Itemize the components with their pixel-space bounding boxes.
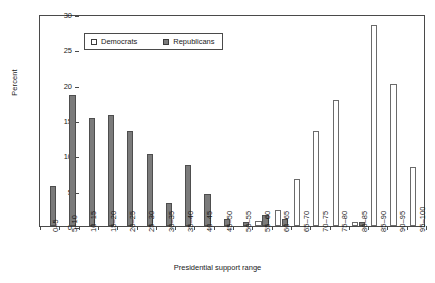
x-tick-label: 30–35 [168,211,176,232]
bar-democrats-90-95 [390,84,396,226]
x-tick-mark [98,226,99,230]
x-tick-label: 45–50 [226,211,234,232]
y-tick-label: 20 [64,82,72,91]
chart-figure: Percent 051015202530 Democrats Republica… [0,0,435,283]
x-tick-label: 65–70 [303,211,311,232]
bar-republicans-5-10 [69,95,75,226]
x-tick-label: 15–20 [110,211,118,232]
y-tick-mark [75,157,79,158]
bar-republicans-15-20 [108,115,114,226]
x-tick-label: 25–30 [148,211,156,232]
x-tick-mark [40,226,41,230]
x-tick-mark [291,226,292,230]
plot-area: 051015202530 Democrats Republicans [39,15,425,227]
chart-legend: Democrats Republicans [84,33,223,50]
bar-democrats-80-85 [352,222,358,226]
legend-swatch-democrats [91,39,97,45]
x-tick-label: 85–90 [380,211,388,232]
legend-item-democrats: Democrats [91,37,137,46]
x-tick-label: 0–5 [52,219,60,232]
x-tick-label: 35–40 [187,211,195,232]
y-tick-label: 30 [64,11,72,20]
x-tick-label: 80–85 [361,211,369,232]
x-tick-label: 90–95 [399,211,407,232]
x-tick-label: 40–45 [206,211,214,232]
x-tick-label: 75–80 [341,211,349,232]
y-tick-mark [75,16,79,17]
y-tick-mark [75,193,79,194]
x-tick-label: 70–75 [322,211,330,232]
x-tick-label: 55–60 [264,211,272,232]
x-tick-label: 60–65 [283,211,291,232]
bar-democrats-95-100 [410,167,416,226]
bar-democrats-60-65 [275,210,281,226]
x-axis-title: Presidential support range [0,263,435,272]
y-tick-label: 25 [64,46,72,55]
bar-democrats-70-75 [313,131,319,226]
x-tick-label: 5–10 [71,215,79,232]
bar-democrats-55-60 [255,221,261,226]
legend-item-republicans: Republicans [163,37,214,46]
bar-democrats-65-70 [294,179,300,226]
x-tick-label: 10–15 [90,211,98,232]
bar-democrats-85-90 [371,25,377,226]
legend-swatch-republicans [163,39,169,45]
x-tick-label: 20–25 [129,211,137,232]
y-tick-mark [75,87,79,88]
y-axis-title: Percent [10,43,19,123]
legend-label-democrats: Democrats [101,37,137,46]
legend-label-republicans: Republicans [173,37,214,46]
x-tick-label: 95–100 [419,206,427,232]
x-tick-label: 50–55 [245,211,253,232]
y-tick-mark [75,122,79,123]
bar-democrats-75-80 [333,100,339,226]
y-tick-mark [75,51,79,52]
